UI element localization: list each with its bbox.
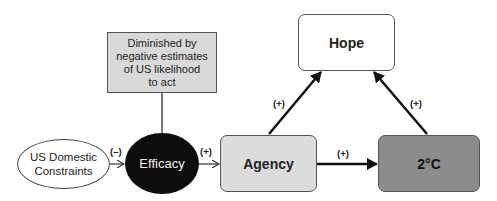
edge-sign-temp-hope: (+) [410, 98, 422, 109]
us-domestic-constraints-node: US Domestic Constraints [17, 139, 110, 189]
efficacy-label: Efficacy [139, 156, 184, 171]
edge-sign-agency-temp: (+) [337, 148, 349, 159]
note-line: Diminished by [116, 37, 208, 50]
efficacy-node: Efficacy [125, 133, 199, 194]
edge-sign-efficacy-agency: (+) [200, 146, 212, 157]
edge-sign-agency-hope: (+) [273, 98, 285, 109]
constraints-line: Constraints [30, 164, 97, 178]
two-degrees-node: 2°C [378, 135, 480, 192]
constraints-line: US Domestic [30, 150, 97, 164]
hope-node: Hope [298, 14, 395, 71]
agency-label: Agency [243, 156, 294, 172]
edge-sign-constraints-efficacy: (–) [110, 146, 122, 157]
two-degrees-label: 2°C [417, 156, 441, 172]
hope-label: Hope [329, 35, 364, 51]
agency-node: Agency [220, 135, 317, 192]
note-line: of US likelihood [116, 63, 208, 76]
note-line: negative estimates [116, 50, 208, 63]
diminished-note-box: Diminished by negative estimates of US l… [107, 32, 217, 93]
note-line: to act [116, 76, 208, 89]
